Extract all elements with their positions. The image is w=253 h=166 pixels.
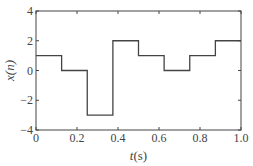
x-tick-label: 0.8 bbox=[193, 131, 208, 145]
x-tick-label: 0.2 bbox=[70, 131, 85, 145]
y-tick-label: 2 bbox=[27, 34, 33, 48]
x-tick-label: 0.6 bbox=[152, 131, 167, 145]
y-tick-label: 0 bbox=[27, 64, 33, 78]
y-axis-label: x(n) bbox=[2, 60, 17, 82]
y-tick-label: 4 bbox=[27, 4, 33, 18]
x-axis-label: t(s) bbox=[130, 148, 147, 163]
x-tick-label: 1.0 bbox=[234, 131, 249, 145]
x-tick-label: 0.4 bbox=[111, 131, 126, 145]
step-chart: 00.20.40.60.81.0−4−2024 t(s) x(n) bbox=[0, 0, 253, 166]
tick-labels: 00.20.40.60.81.0−4−2024 bbox=[20, 4, 248, 145]
y-tick-label: −4 bbox=[20, 123, 33, 137]
x-tick-label: 0 bbox=[33, 131, 39, 145]
y-tick-label: −2 bbox=[20, 93, 33, 107]
signal-step-line bbox=[36, 41, 241, 115]
